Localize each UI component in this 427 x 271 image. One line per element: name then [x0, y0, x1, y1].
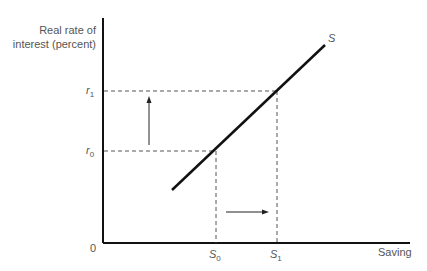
x-axis-label: Saving	[378, 246, 412, 258]
y-axis-label-line1: Real rate of	[39, 24, 96, 36]
x-tick-s1: S1	[270, 248, 282, 263]
up-arrow-icon	[147, 96, 152, 103]
y-axis-label-line2: interest (percent)	[13, 38, 96, 50]
origin-label: 0	[90, 242, 96, 254]
saving-curve-s	[172, 45, 325, 190]
right-arrow-icon	[262, 210, 269, 215]
x-tick-s0: S0	[209, 248, 221, 263]
y-tick-r1: r1	[86, 84, 94, 99]
y-tick-r0: r0	[86, 144, 94, 159]
curve-label-s: S	[328, 32, 335, 44]
